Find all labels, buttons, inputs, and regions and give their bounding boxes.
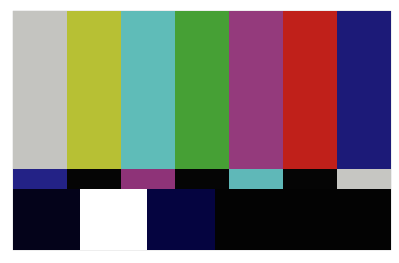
top-color-bars <box>13 11 391 169</box>
top-magenta-bar <box>229 11 283 169</box>
top-blue-bar <box>337 11 391 169</box>
middle-gray-bar <box>337 169 391 189</box>
top-green-bar <box>175 11 229 169</box>
middle-black-bar <box>283 169 337 189</box>
middle-black-bar <box>67 169 121 189</box>
bottom-black-bar <box>215 189 391 250</box>
color-bars-pattern <box>13 11 391 250</box>
top-yellow-bar <box>67 11 121 169</box>
middle-cyan-bar <box>229 169 283 189</box>
middle-color-strip <box>13 169 391 189</box>
bottom-navy-bar <box>147 189 215 250</box>
bottom-pluge-row <box>13 189 391 250</box>
top-gray-bar <box>13 11 67 169</box>
middle-magenta-bar <box>121 169 175 189</box>
top-cyan-bar <box>121 11 175 169</box>
bottom-white-bar <box>80 189 147 250</box>
middle-black-bar <box>175 169 229 189</box>
middle-blue-bar <box>13 169 67 189</box>
bottom-dark-navy-bar <box>13 189 80 250</box>
top-red-bar <box>283 11 337 169</box>
